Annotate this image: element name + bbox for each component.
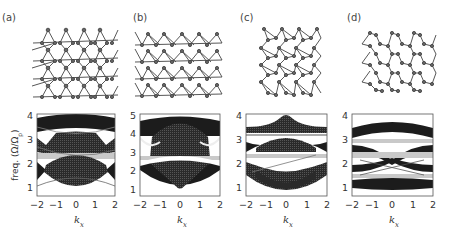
x-axis-label-b: kx	[177, 214, 187, 229]
svg-text:1: 1	[342, 182, 348, 193]
band-plot-d	[352, 114, 433, 196]
svg-text:−1: −1	[153, 199, 167, 210]
svg-text:−2: −2	[345, 199, 359, 210]
x-axis-label-a: kx	[74, 214, 84, 229]
svg-text:2: 2	[324, 199, 330, 210]
svg-text:−2: −2	[30, 199, 44, 210]
y-ticks-a: 4 3 2 1	[27, 110, 33, 193]
band-plot-a	[37, 114, 115, 196]
x-ticks-d: −2 −1 0 1 2	[345, 199, 436, 210]
svg-text:1: 1	[197, 199, 203, 210]
x-ticks-b: −2 −1 0 1 2	[133, 199, 223, 210]
svg-text:3: 3	[342, 134, 348, 145]
svg-text:1: 1	[410, 199, 416, 210]
svg-text:2: 2	[27, 158, 33, 169]
svg-text:3: 3	[130, 147, 136, 158]
svg-text:−2: −2	[133, 199, 147, 210]
svg-text:3: 3	[236, 134, 242, 145]
svg-text:0: 0	[283, 199, 289, 210]
svg-text:4: 4	[27, 110, 33, 121]
svg-text:2: 2	[130, 165, 136, 176]
y-ticks-b: 5 4 3 2 1	[130, 110, 136, 195]
svg-text:0: 0	[177, 199, 183, 210]
y-ticks-c: 4 3 2 1	[236, 110, 242, 193]
x-axis-label-d: kx	[389, 214, 399, 229]
svg-text:4: 4	[130, 128, 136, 139]
figure-canvas: freq. (Ω/Ωp)	[0, 0, 452, 235]
x-ticks-c: −2 −1 0 1 2	[239, 199, 330, 210]
x-ticks-a: −2 −1 0 1 2	[30, 199, 118, 210]
svg-text:0: 0	[73, 199, 79, 210]
svg-text:1: 1	[92, 199, 98, 210]
svg-text:2: 2	[112, 199, 118, 210]
svg-text:−1: −1	[49, 199, 63, 210]
svg-text:0: 0	[389, 199, 395, 210]
x-axis-label-c: kx	[283, 214, 293, 229]
svg-text:1: 1	[130, 184, 136, 195]
svg-text:2: 2	[342, 158, 348, 169]
svg-text:1: 1	[304, 199, 310, 210]
svg-text:−2: −2	[239, 199, 253, 210]
svg-text:5: 5	[130, 110, 136, 121]
lattice-a	[32, 28, 118, 98]
band-plot-c	[246, 114, 327, 196]
band-plot-b	[140, 114, 220, 196]
lattice-c	[259, 27, 321, 96]
svg-text:−1: −1	[365, 199, 379, 210]
svg-text:4: 4	[236, 110, 242, 121]
svg-text:3: 3	[27, 134, 33, 145]
lattice-b	[135, 32, 222, 98]
svg-text:1: 1	[27, 182, 33, 193]
lattice-d	[362, 31, 436, 92]
svg-text:2: 2	[236, 158, 242, 169]
y-ticks-d: 4 3 2 1	[342, 110, 348, 193]
svg-text:1: 1	[236, 182, 242, 193]
y-axis-label: freq. (Ω/Ωp)	[10, 129, 24, 180]
svg-text:2: 2	[430, 199, 436, 210]
svg-text:2: 2	[217, 199, 223, 210]
svg-text:4: 4	[342, 110, 348, 121]
svg-text:−1: −1	[259, 199, 273, 210]
